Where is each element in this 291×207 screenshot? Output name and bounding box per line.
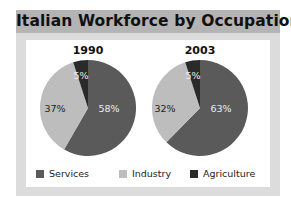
pie-2003-industry-label: 32% [150,103,180,114]
legend-label-services: Services [49,168,89,179]
legend-swatch-services [36,170,44,178]
legend-item-agriculture: Agriculture [190,168,255,179]
title-band: Italian Workforce by Occupation [16,10,280,33]
pie-2003-agriculture-label: 5% [178,70,208,81]
legend-item-services: Services [36,168,89,179]
legend-swatch-agriculture [190,170,198,178]
legend-label-industry: Industry [132,168,171,179]
pie-2003-year: 2003 [170,44,230,57]
pie-1990-industry-label: 37% [40,103,70,114]
legend-swatch-industry [119,170,127,178]
chart-area: 1990 5% 37% 58% 2003 5% 32% 63% Services [26,40,270,187]
legend-label-agriculture: Agriculture [203,168,255,179]
chart-title: Italian Workforce by Occupation [16,10,280,33]
legend: Services Industry Agriculture [26,168,270,184]
pie-2003-services-label: 63% [206,103,236,114]
pie-1990-services-label: 58% [94,103,124,114]
pie-1990-year: 1990 [58,44,118,57]
legend-item-industry: Industry [119,168,171,179]
chart-panel: Italian Workforce by Occupation 1990 5% … [16,10,280,196]
pie-1990-agriculture-label: 5% [66,70,96,81]
